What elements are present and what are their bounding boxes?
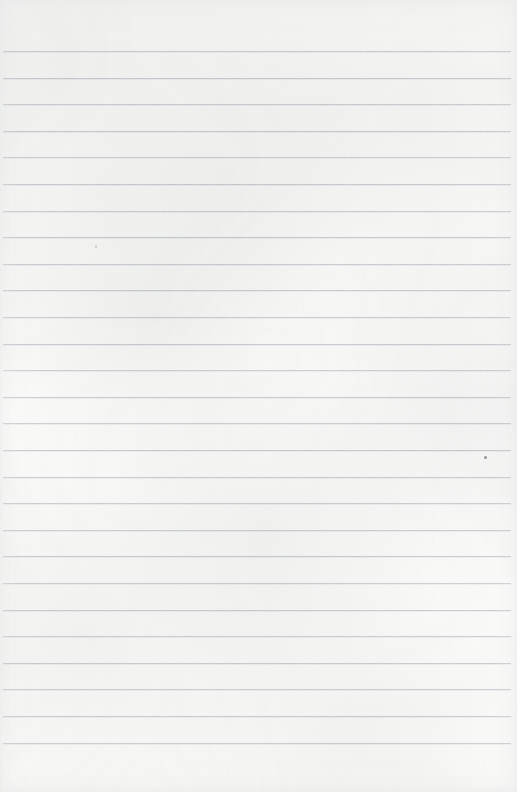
ruled-line [3, 344, 511, 345]
ruled-line [3, 184, 511, 185]
ruled-line [3, 503, 511, 504]
ink-speck-right [484, 456, 487, 459]
ruled-line [3, 716, 511, 717]
ink-speck-left [95, 245, 97, 248]
ruled-line [3, 689, 511, 690]
ruled-line [3, 51, 511, 52]
ruled-lines-layer [0, 0, 517, 792]
ruled-line [3, 477, 511, 478]
ruled-line [3, 663, 511, 664]
ruled-line [3, 264, 511, 265]
ruled-line [3, 237, 511, 238]
ruled-line [3, 556, 511, 557]
ruled-line [3, 290, 511, 291]
scanned-page [0, 0, 517, 792]
ruled-line [3, 131, 511, 132]
ruled-line [3, 530, 511, 531]
ruled-line [3, 78, 511, 79]
ruled-line [3, 370, 511, 371]
ruled-line [3, 610, 511, 611]
ruled-line [3, 397, 511, 398]
ruled-line [3, 743, 511, 744]
ruled-line [3, 583, 511, 584]
ruled-line [3, 211, 511, 212]
ruled-line [3, 104, 511, 105]
ruled-line [3, 636, 511, 637]
ruled-line [3, 317, 511, 318]
ruled-line [3, 157, 511, 158]
ruled-line [3, 450, 511, 451]
ruled-line [3, 423, 511, 424]
